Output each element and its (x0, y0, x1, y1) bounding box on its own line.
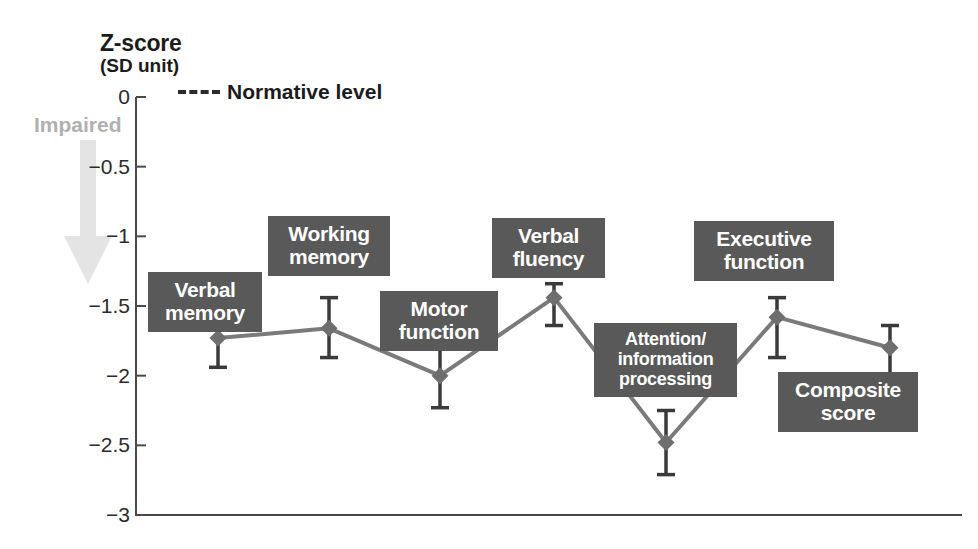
data-label-attention: Attention/ information processing (594, 323, 737, 397)
data-label-executive-function: Executive function (694, 221, 834, 281)
data-label-verbal-memory: Verbal memory (148, 272, 262, 332)
data-label-verbal-fluency: Verbal fluency (492, 218, 605, 278)
data-label-working-memory: Working memory (268, 216, 390, 276)
data-label-composite-score: Composite score (778, 372, 918, 432)
data-label-motor-function: Motor function (380, 291, 498, 351)
chart-figure: Z-score (SD unit) Impaired Normative lev… (0, 0, 978, 549)
